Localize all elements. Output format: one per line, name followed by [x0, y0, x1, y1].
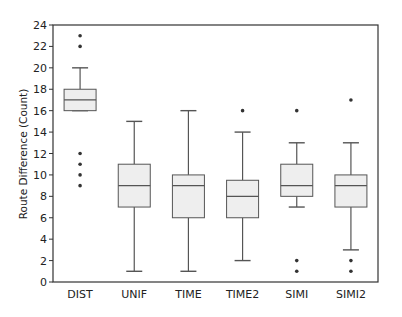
y-tick-label: 24 [33, 19, 47, 32]
y-axis: 024681012141618202224 [33, 19, 53, 289]
outlier-point [349, 98, 353, 102]
outlier-point [295, 259, 299, 263]
outlier-point [241, 109, 245, 113]
plot-area [64, 34, 367, 273]
outlier-point [295, 269, 299, 273]
box-plot-chart: 024681012141618202224 DISTUNIFTIMETIME2S… [0, 0, 402, 317]
box-dist [64, 34, 96, 188]
iqr-box [227, 180, 259, 217]
outlier-point [78, 45, 82, 49]
y-tick-label: 4 [40, 233, 47, 246]
outlier-point [349, 269, 353, 273]
x-tick-label: TIME2 [225, 288, 259, 301]
x-tick-label: DIST [67, 288, 93, 301]
box-time [172, 111, 204, 272]
y-tick-label: 22 [33, 40, 47, 53]
x-tick-label: UNIF [121, 288, 147, 301]
y-tick-label: 18 [33, 83, 47, 96]
outlier-point [78, 184, 82, 188]
y-tick-label: 2 [40, 255, 47, 268]
outlier-point [349, 259, 353, 263]
box-simi [281, 109, 313, 273]
y-tick-label: 8 [40, 190, 47, 203]
iqr-box [335, 175, 367, 207]
iqr-box [172, 175, 204, 218]
x-axis: DISTUNIFTIMETIME2SIMISIMI2 [67, 288, 366, 301]
outlier-point [78, 152, 82, 156]
y-tick-label: 14 [33, 126, 47, 139]
y-tick-label: 12 [33, 148, 47, 161]
y-tick-label: 10 [33, 169, 47, 182]
x-tick-label: SIMI2 [336, 288, 366, 301]
plot-frame [53, 25, 378, 282]
outlier-point [78, 173, 82, 177]
box-unif [118, 121, 150, 271]
y-tick-label: 0 [40, 276, 47, 289]
x-tick-label: SIMI [285, 288, 308, 301]
outlier-point [78, 34, 82, 38]
y-tick-label: 6 [40, 212, 47, 225]
box-time2 [227, 109, 259, 261]
y-tick-label: 16 [33, 105, 47, 118]
outlier-point [78, 162, 82, 166]
x-tick-label: TIME [174, 288, 201, 301]
box-simi2 [335, 98, 367, 273]
outlier-point [295, 109, 299, 113]
y-axis-title: Route Difference (Count) [17, 89, 29, 220]
iqr-box [281, 164, 313, 196]
y-tick-label: 20 [33, 62, 47, 75]
